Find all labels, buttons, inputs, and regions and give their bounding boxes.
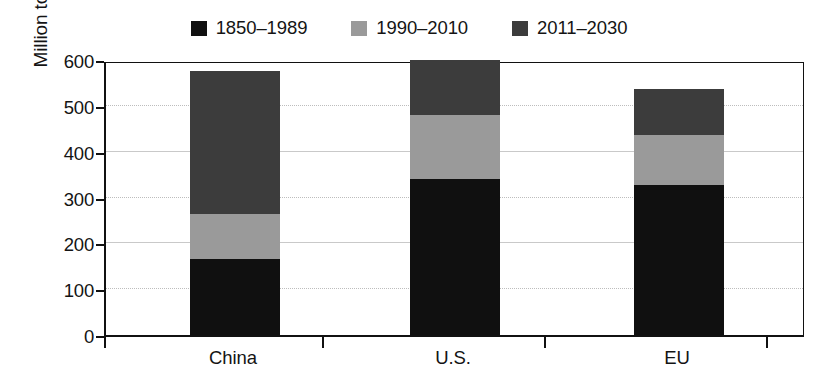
y-tick-mark-600 bbox=[96, 61, 104, 63]
legend-label-1990-2010: 1990–2010 bbox=[376, 19, 468, 38]
legend-swatch-1850-1989 bbox=[191, 21, 207, 36]
legend-label-2011-2030: 2011–2030 bbox=[537, 19, 627, 38]
y-tick-label-300: 300 bbox=[34, 189, 94, 211]
y-tick-mark-100 bbox=[96, 290, 104, 292]
plot-area bbox=[104, 62, 804, 337]
legend-swatch-1990-2010 bbox=[351, 21, 367, 36]
y-tick-label-600: 600 bbox=[34, 51, 94, 73]
bar-segment[interactable] bbox=[410, 60, 500, 115]
bar-segment[interactable] bbox=[410, 179, 500, 335]
x-tick-label-u-s: U.S. bbox=[363, 347, 543, 369]
y-tick-mark-400 bbox=[96, 153, 104, 155]
bar-group-u-s[interactable] bbox=[410, 60, 500, 335]
bar-segment[interactable] bbox=[190, 259, 280, 335]
legend-item-1850-1989[interactable]: 1850–1989 bbox=[191, 19, 308, 38]
y-tick-label-500: 500 bbox=[34, 97, 94, 119]
bar-segment[interactable] bbox=[634, 185, 724, 335]
y-tick-label-400: 400 bbox=[34, 143, 94, 165]
legend-label-1850-1989: 1850–1989 bbox=[216, 19, 308, 38]
x-tick-mark-0 bbox=[104, 337, 106, 348]
legend-swatch-2011-2030 bbox=[512, 21, 528, 36]
y-axis-title: Million tons CO2 equivalent bbox=[24, 0, 58, 96]
y-tick-label-100: 100 bbox=[34, 280, 94, 302]
bar-group-china[interactable] bbox=[190, 60, 280, 335]
x-tick-label-china: China bbox=[143, 347, 323, 369]
legend-item-1990-2010[interactable]: 1990–2010 bbox=[351, 19, 468, 38]
bar-group-eu[interactable] bbox=[634, 60, 724, 335]
y-tick-mark-500 bbox=[96, 107, 104, 109]
y-tick-label-200: 200 bbox=[34, 234, 94, 256]
bar-segment[interactable] bbox=[190, 214, 280, 260]
y-tick-mark-200 bbox=[96, 244, 104, 246]
legend-item-2011-2030[interactable]: 2011–2030 bbox=[512, 19, 627, 38]
y-tick-mark-300 bbox=[96, 199, 104, 201]
bar-segment[interactable] bbox=[190, 71, 280, 213]
bar-segment[interactable] bbox=[410, 115, 500, 179]
y-tick-label-0: 0 bbox=[34, 326, 94, 348]
chart-legend: 1850–1989 1990–2010 2011–2030 bbox=[0, 14, 818, 42]
bar-segment[interactable] bbox=[634, 135, 724, 185]
y-tick-mark-0 bbox=[96, 336, 104, 338]
bar-segment[interactable] bbox=[634, 89, 724, 135]
x-tick-mark-2 bbox=[544, 337, 546, 348]
stacked-bar-chart: 1850–1989 1990–2010 2011–2030 Million to… bbox=[0, 0, 818, 380]
x-tick-label-eu: EU bbox=[587, 347, 767, 369]
